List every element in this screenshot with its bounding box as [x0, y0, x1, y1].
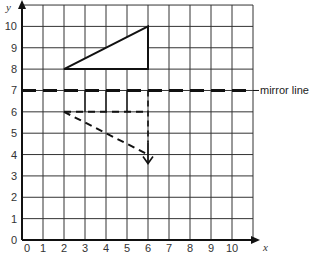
y-axis-label: y — [5, 1, 11, 13]
x-tick-label: 8 — [187, 242, 193, 254]
y-tick-label: 7 — [11, 84, 17, 96]
x-tick-label: 6 — [145, 242, 151, 254]
y-tick-label: 8 — [11, 63, 17, 75]
x-axis-label: x — [262, 241, 268, 253]
y-tick-label: 4 — [11, 149, 17, 161]
y-tick-label: 0 — [11, 234, 17, 246]
x-tick-label: 5 — [124, 242, 130, 254]
x-tick-label: 9 — [208, 242, 214, 254]
x-tick-label: 10 — [226, 242, 238, 254]
y-tick-label: 2 — [11, 191, 17, 203]
y-tick-label: 9 — [11, 42, 17, 54]
y-tick-label: 5 — [11, 127, 17, 139]
x-tick-label: 2 — [61, 242, 67, 254]
reflection-diagram: 012345678910012345678910xymirror line — [0, 0, 312, 258]
y-tick-label: 3 — [11, 170, 17, 182]
x-tick-label: 1 — [40, 242, 46, 254]
x-tick-label: 3 — [82, 242, 88, 254]
x-tick-label: 4 — [103, 242, 109, 254]
x-tick-label: 7 — [166, 242, 172, 254]
y-tick-label: 1 — [11, 213, 17, 225]
y-tick-label: 10 — [5, 20, 17, 32]
x-axis-arrow-icon — [251, 236, 260, 244]
y-tick-label: 6 — [11, 106, 17, 118]
mirror-line-label: mirror line — [260, 84, 309, 96]
x-tick-label: 0 — [24, 242, 30, 254]
